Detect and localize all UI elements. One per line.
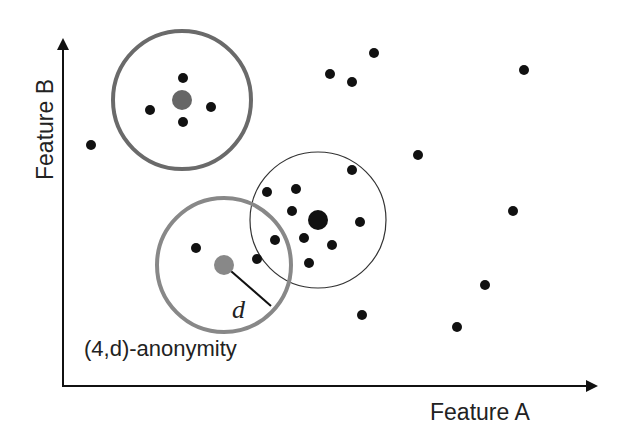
data-point xyxy=(508,206,518,216)
data-point xyxy=(355,217,365,227)
top-left-cluster-center xyxy=(172,90,192,110)
data-point xyxy=(413,150,423,160)
data-point xyxy=(369,48,379,58)
data-point xyxy=(347,165,357,175)
anonymity-label: (4,d)-anonymity xyxy=(84,336,237,361)
data-point xyxy=(145,105,155,115)
data-point xyxy=(86,140,96,150)
data-point xyxy=(347,77,357,87)
data-point xyxy=(191,243,201,253)
data-point xyxy=(206,102,216,112)
data-point xyxy=(357,310,367,320)
radius-label: d xyxy=(232,295,246,324)
scatter-diagram: Feature A Feature B d (4,d)-anonymity xyxy=(0,0,627,444)
data-point xyxy=(291,184,301,194)
data-point xyxy=(304,258,314,268)
data-point xyxy=(287,206,297,216)
data-point xyxy=(299,233,309,243)
data-point xyxy=(252,254,262,264)
data-point xyxy=(327,240,337,250)
data-point xyxy=(325,69,335,79)
data-point xyxy=(480,280,490,290)
data-point xyxy=(262,187,272,197)
anonymity-cluster-center xyxy=(214,255,234,275)
data-points xyxy=(86,48,529,332)
data-point xyxy=(178,73,188,83)
x-axis-label: Feature A xyxy=(430,399,530,425)
data-point xyxy=(270,235,280,245)
y-axis-label: Feature B xyxy=(32,79,58,180)
data-point xyxy=(519,65,529,75)
middle-cluster-center xyxy=(308,210,328,230)
data-point xyxy=(452,322,462,332)
data-point xyxy=(178,117,188,127)
